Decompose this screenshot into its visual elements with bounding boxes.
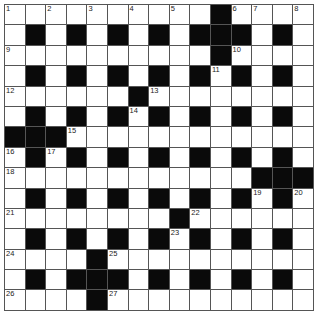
grid-cell[interactable] — [46, 87, 66, 106]
grid-cell[interactable]: 19 — [252, 189, 272, 208]
grid-cell[interactable] — [46, 25, 66, 44]
grid-cell[interactable] — [129, 148, 149, 167]
grid-cell[interactable] — [252, 270, 272, 289]
grid-cell[interactable] — [46, 107, 66, 126]
grid-cell[interactable] — [170, 168, 190, 187]
grid-cell[interactable] — [26, 46, 46, 65]
grid-cell[interactable] — [293, 66, 313, 85]
grid-cell[interactable] — [87, 46, 107, 65]
grid-cell[interactable] — [87, 229, 107, 248]
grid-cell[interactable]: 3 — [87, 5, 107, 24]
grid-cell[interactable]: 12 — [5, 87, 25, 106]
grid-cell[interactable] — [211, 107, 231, 126]
grid-cell[interactable] — [129, 168, 149, 187]
grid-cell[interactable] — [170, 148, 190, 167]
grid-cell[interactable] — [232, 290, 252, 309]
grid-cell[interactable] — [170, 87, 190, 106]
grid-cell[interactable] — [211, 189, 231, 208]
grid-cell[interactable] — [5, 66, 25, 85]
grid-cell[interactable] — [211, 290, 231, 309]
grid-cell[interactable] — [211, 127, 231, 146]
grid-cell[interactable] — [293, 46, 313, 65]
grid-cell[interactable] — [67, 290, 87, 309]
grid-cell[interactable] — [190, 46, 210, 65]
grid-cell[interactable] — [293, 270, 313, 289]
grid-cell[interactable] — [273, 290, 293, 309]
grid-cell[interactable] — [5, 229, 25, 248]
grid-cell[interactable] — [293, 107, 313, 126]
grid-cell[interactable] — [46, 270, 66, 289]
grid-cell[interactable]: 6 — [232, 5, 252, 24]
grid-cell[interactable]: 4 — [129, 5, 149, 24]
grid-cell[interactable] — [26, 87, 46, 106]
grid-cell[interactable]: 16 — [5, 148, 25, 167]
grid-cell[interactable] — [46, 229, 66, 248]
grid-cell[interactable] — [252, 209, 272, 228]
grid-cell[interactable] — [273, 250, 293, 269]
grid-cell[interactable] — [67, 250, 87, 269]
grid-cell[interactable] — [87, 87, 107, 106]
grid-cell[interactable] — [252, 25, 272, 44]
grid-cell[interactable] — [232, 127, 252, 146]
grid-cell[interactable] — [5, 270, 25, 289]
grid-cell[interactable] — [252, 148, 272, 167]
grid-cell[interactable] — [87, 127, 107, 146]
grid-cell[interactable]: 14 — [129, 107, 149, 126]
grid-cell[interactable]: 5 — [170, 5, 190, 24]
grid-cell[interactable] — [46, 46, 66, 65]
grid-cell[interactable] — [129, 209, 149, 228]
grid-cell[interactable] — [293, 290, 313, 309]
grid-cell[interactable] — [170, 189, 190, 208]
grid-cell[interactable] — [46, 168, 66, 187]
grid-cell[interactable] — [252, 290, 272, 309]
grid-cell[interactable] — [211, 87, 231, 106]
grid-cell[interactable] — [129, 229, 149, 248]
grid-cell[interactable]: 2 — [46, 5, 66, 24]
grid-cell[interactable]: 9 — [5, 46, 25, 65]
grid-cell[interactable] — [46, 189, 66, 208]
grid-cell[interactable] — [190, 290, 210, 309]
grid-cell[interactable]: 21 — [5, 209, 25, 228]
grid-cell[interactable] — [87, 66, 107, 85]
grid-cell[interactable] — [190, 168, 210, 187]
grid-cell[interactable] — [190, 127, 210, 146]
grid-cell[interactable] — [108, 127, 128, 146]
grid-cell[interactable] — [170, 66, 190, 85]
grid-cell[interactable] — [67, 87, 87, 106]
grid-cell[interactable] — [170, 25, 190, 44]
grid-cell[interactable] — [273, 46, 293, 65]
grid-cell[interactable] — [170, 250, 190, 269]
grid-cell[interactable] — [87, 209, 107, 228]
grid-cell[interactable]: 1 — [5, 5, 25, 24]
grid-cell[interactable] — [211, 229, 231, 248]
grid-cell[interactable] — [26, 5, 46, 24]
grid-cell[interactable] — [26, 290, 46, 309]
grid-cell[interactable] — [170, 270, 190, 289]
grid-cell[interactable]: 26 — [5, 290, 25, 309]
grid-cell[interactable] — [293, 229, 313, 248]
grid-cell[interactable] — [46, 290, 66, 309]
grid-cell[interactable] — [252, 107, 272, 126]
grid-cell[interactable] — [190, 5, 210, 24]
grid-cell[interactable] — [273, 5, 293, 24]
grid-cell[interactable]: 10 — [232, 46, 252, 65]
grid-cell[interactable] — [252, 250, 272, 269]
grid-cell[interactable] — [129, 270, 149, 289]
grid-cell[interactable]: 8 — [293, 5, 313, 24]
grid-cell[interactable]: 15 — [67, 127, 87, 146]
grid-cell[interactable]: 7 — [252, 5, 272, 24]
grid-cell[interactable] — [46, 209, 66, 228]
grid-cell[interactable] — [252, 46, 272, 65]
grid-cell[interactable] — [46, 66, 66, 85]
grid-cell[interactable] — [26, 168, 46, 187]
grid-cell[interactable] — [211, 270, 231, 289]
grid-cell[interactable] — [5, 107, 25, 126]
grid-cell[interactable] — [293, 148, 313, 167]
grid-cell[interactable] — [273, 87, 293, 106]
grid-cell[interactable] — [87, 148, 107, 167]
grid-cell[interactable] — [129, 250, 149, 269]
grid-cell[interactable] — [149, 290, 169, 309]
grid-cell[interactable]: 24 — [5, 250, 25, 269]
grid-cell[interactable] — [129, 127, 149, 146]
grid-cell[interactable] — [293, 25, 313, 44]
